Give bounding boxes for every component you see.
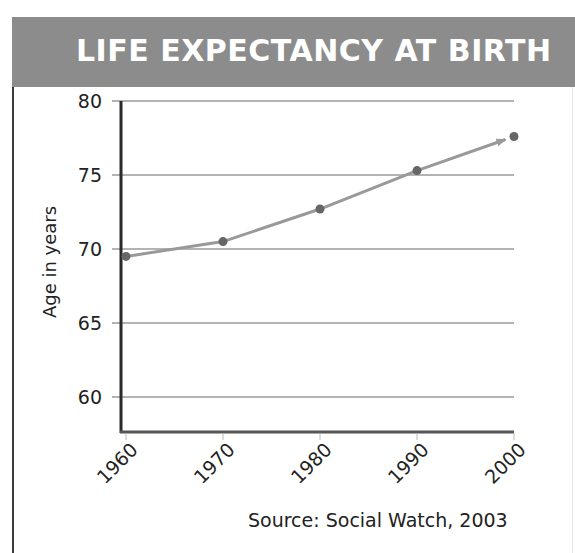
data-point: [510, 132, 519, 141]
y-tick-label: 80: [78, 90, 102, 112]
x-tick-label: 1980: [286, 438, 336, 488]
y-tick-label: 65: [78, 312, 102, 334]
data-point: [219, 237, 228, 246]
axes: [120, 101, 514, 433]
source-note: Source: Social Watch, 2003: [248, 509, 508, 531]
x-tick-label: 1970: [189, 438, 239, 488]
y-tick-label: 60: [78, 386, 102, 408]
x-tick-labels: 19601970198019902000: [92, 433, 530, 488]
y-axis-label: Age in years: [39, 206, 60, 318]
data-point: [413, 166, 422, 175]
data-point: [316, 205, 325, 214]
y-tick-label: 70: [78, 238, 102, 260]
plot-area: 6065707580 19601970198019902000 Age in y…: [0, 0, 575, 553]
x-tick-label: 1960: [92, 438, 142, 488]
x-tick-label: 1990: [383, 438, 433, 488]
y-tick-labels: 6065707580: [78, 90, 102, 408]
x-tick-label: 2000: [480, 438, 530, 488]
data-point: [122, 252, 131, 261]
data-series: [122, 132, 519, 261]
y-tick-label: 75: [78, 164, 102, 186]
chart-figure: LIFE EXPECTANCY AT BIRTH 6065707580 1960…: [0, 0, 575, 553]
series-line: [126, 140, 506, 257]
